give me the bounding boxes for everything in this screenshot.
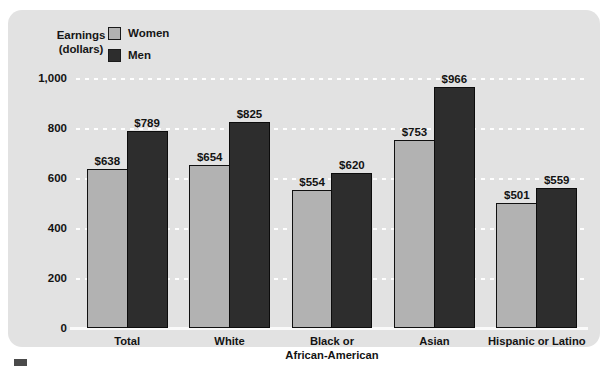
bar-group: $753$966Asian <box>383 78 485 328</box>
x-axis-category-line: African-American <box>285 348 378 362</box>
bar-group: $501$559Hispanic or Latino <box>486 78 588 328</box>
x-axis-category-line: Hispanic or Latino <box>488 334 586 348</box>
bar-value-label: $789 <box>134 117 160 129</box>
bar-value-label: $966 <box>441 73 467 85</box>
plot-area: 02004006008001,000 $638$789Total$654$825… <box>76 78 588 328</box>
bar-women[interactable]: $638 <box>87 169 128 329</box>
bar-value-label: $554 <box>299 176 325 188</box>
earnings-bar-chart-figure: Earnings (dollars) Women Men 02004006008… <box>0 0 616 371</box>
bar-women[interactable]: $554 <box>292 190 333 329</box>
legend-label-women: Women <box>128 27 169 39</box>
x-axis-category-line: Asian <box>419 334 449 348</box>
bar-group: $654$825White <box>178 78 280 328</box>
legend-swatch-women-icon <box>108 27 121 40</box>
bar-women[interactable]: $501 <box>496 203 537 328</box>
legend-swatch-men-icon <box>108 49 121 62</box>
page-artifact-mark <box>14 359 27 366</box>
legend-item-women: Women <box>108 23 238 43</box>
x-axis-category-line: Black or <box>285 334 378 348</box>
bar-group: $554$620Black orAfrican-American <box>281 78 383 328</box>
bar-women[interactable]: $654 <box>189 165 230 329</box>
x-axis-category-label: Hispanic or Latino <box>488 334 586 348</box>
bar-pair: $753$966 <box>383 78 485 328</box>
x-axis-category-label: Asian <box>419 334 449 348</box>
x-axis-category-line: Total <box>114 334 140 348</box>
y-tick-label-200: 200 <box>48 272 67 284</box>
bar-value-label: $825 <box>237 108 263 120</box>
bar-men[interactable]: $559 <box>536 188 577 328</box>
y-tick-label-600: 600 <box>48 172 67 184</box>
chart-legend: Women Men <box>108 23 238 67</box>
bar-men[interactable]: $966 <box>434 87 475 329</box>
bar-value-label: $753 <box>402 126 428 138</box>
bar-value-label: $559 <box>544 174 570 186</box>
bar-value-label: $638 <box>94 155 120 167</box>
bar-women[interactable]: $753 <box>394 140 435 328</box>
legend-label-men: Men <box>128 49 151 61</box>
chart-panel: Earnings (dollars) Women Men 02004006008… <box>8 10 600 347</box>
y-tick-label-800: 800 <box>48 122 67 134</box>
bar-pair: $554$620 <box>281 78 383 328</box>
y-tick-label-0: 0 <box>61 322 67 334</box>
bar-men[interactable]: $789 <box>127 131 168 328</box>
x-axis-category-label: White <box>214 334 244 348</box>
bar-value-label: $501 <box>504 189 530 201</box>
legend-item-men: Men <box>108 45 238 65</box>
y-tick-label-1000: 1,000 <box>38 72 67 84</box>
bar-value-label: $654 <box>197 151 223 163</box>
x-axis-category-line: White <box>214 334 244 348</box>
bar-pair: $654$825 <box>178 78 280 328</box>
bar-group: $638$789Total <box>76 78 178 328</box>
bar-pair: $638$789 <box>76 78 178 328</box>
bar-value-label: $620 <box>339 159 365 171</box>
y-tick-label-400: 400 <box>48 222 67 234</box>
x-axis-category-label: Total <box>114 334 140 348</box>
bar-men[interactable]: $825 <box>229 122 270 328</box>
x-axis-category-label: Black orAfrican-American <box>285 334 378 362</box>
bar-men[interactable]: $620 <box>331 173 372 328</box>
bar-pair: $501$559 <box>486 78 588 328</box>
